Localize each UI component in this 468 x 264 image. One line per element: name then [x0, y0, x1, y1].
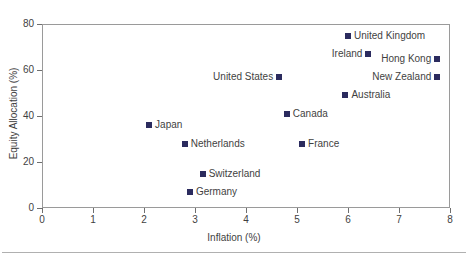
x-tick-mark	[297, 208, 298, 213]
x-tick-mark	[195, 208, 196, 213]
data-point-label: United Kingdom	[354, 31, 425, 41]
data-point-marker	[146, 122, 152, 128]
x-tick-mark	[348, 208, 349, 213]
x-axis-title: Inflation (%)	[0, 232, 468, 243]
y-tick-mark	[37, 70, 42, 71]
data-point-marker	[182, 141, 188, 147]
data-point-label: Japan	[155, 120, 182, 130]
y-tick-mark	[37, 116, 42, 117]
data-point-marker	[345, 33, 351, 39]
x-tick-mark	[42, 208, 43, 213]
y-tick-mark	[37, 162, 42, 163]
footer-divider	[2, 252, 466, 253]
y-tick-label: 80	[0, 19, 34, 29]
y-axis-title: Equity Allocation (%)	[8, 49, 19, 179]
data-point-label: New Zealand	[372, 72, 431, 82]
data-point-label: Australia	[351, 90, 390, 100]
scatter-chart-figure: 020406080 012345678 United KingdomIrelan…	[0, 0, 468, 264]
data-point-label: Switzerland	[209, 169, 261, 179]
data-point-marker	[200, 171, 206, 177]
x-tick-label: 6	[336, 215, 360, 225]
x-tick-mark	[399, 208, 400, 213]
data-point-label: Netherlands	[191, 139, 245, 149]
data-point-marker	[284, 111, 290, 117]
data-point-marker	[299, 141, 305, 147]
data-point-marker	[365, 51, 371, 57]
data-point-label: United States	[213, 72, 273, 82]
x-tick-label: 4	[234, 215, 258, 225]
x-tick-label: 1	[81, 215, 105, 225]
x-tick-label: 5	[285, 215, 309, 225]
data-point-marker	[276, 74, 282, 80]
data-point-marker	[342, 92, 348, 98]
data-point-label: Canada	[293, 109, 328, 119]
x-tick-mark	[93, 208, 94, 213]
y-tick-mark	[37, 24, 42, 25]
x-tick-mark	[144, 208, 145, 213]
y-tick-label: 0	[0, 203, 34, 213]
x-tick-label: 3	[183, 215, 207, 225]
x-tick-label: 8	[438, 215, 462, 225]
data-point-marker	[187, 189, 193, 195]
data-point-label: Hong Kong	[381, 54, 431, 64]
x-tick-mark	[246, 208, 247, 213]
x-tick-label: 0	[30, 215, 54, 225]
x-tick-mark	[450, 208, 451, 213]
x-tick-label: 2	[132, 215, 156, 225]
data-point-marker	[434, 56, 440, 62]
data-point-label: Ireland	[332, 49, 363, 59]
data-point-label: Germany	[196, 187, 237, 197]
data-point-marker	[434, 74, 440, 80]
data-point-label: France	[308, 139, 339, 149]
x-tick-label: 7	[387, 215, 411, 225]
